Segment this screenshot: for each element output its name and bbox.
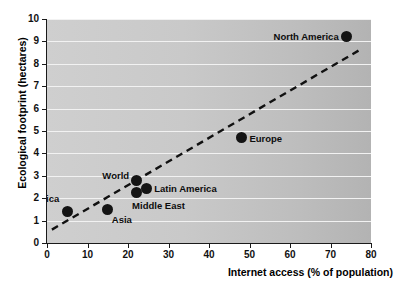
x-axis-title: Internet access (% of population): [181, 266, 393, 278]
x-axis-tick: [290, 244, 291, 248]
data-point-label: Europe: [249, 134, 282, 144]
x-axis-tick: [88, 244, 89, 248]
data-point-label: Latin America: [154, 184, 216, 194]
y-axis-tick: [42, 131, 46, 132]
y-axis-tick: [42, 243, 46, 244]
data-point-label: Africa: [47, 194, 59, 204]
x-axis-tick-label: 80: [356, 250, 386, 260]
plot-area: AfricaAsiaWorldMiddle EastLatin AmericaE…: [47, 19, 371, 243]
x-axis-tick: [250, 244, 251, 248]
data-point-label: World: [102, 171, 129, 181]
x-axis-tick-label: 60: [275, 250, 305, 260]
data-point-marker: [131, 187, 142, 198]
y-axis-tick: [42, 64, 46, 65]
x-axis-tick-label: 30: [154, 250, 184, 260]
x-axis-tick: [371, 244, 372, 248]
y-axis-tick: [42, 153, 46, 154]
scatter-chart-figure: · · · · · · AfricaAsiaWorldMiddle EastLa…: [0, 0, 395, 291]
data-point-marker: [141, 183, 152, 194]
data-point-label: Middle East: [132, 201, 185, 211]
data-point-label: North America: [274, 32, 339, 42]
x-axis-tick-label: 50: [235, 250, 265, 260]
x-axis-tick-label: 0: [32, 250, 62, 260]
x-axis-tick: [169, 244, 170, 248]
x-axis-tick-label: 70: [316, 250, 346, 260]
trendline: [47, 19, 371, 243]
x-axis-tick: [209, 244, 210, 248]
x-axis-tick-label: 10: [73, 250, 103, 260]
clipped-caption-remnant: · · · · · ·: [95, 0, 325, 4]
y-axis-title: Ecological footprint (hectares): [16, 18, 28, 208]
y-axis-tick: [42, 221, 46, 222]
x-axis-tick-label: 40: [194, 250, 224, 260]
y-axis-tick: [42, 86, 46, 87]
data-point-label: Asia: [112, 215, 132, 225]
data-point-marker: [236, 132, 247, 143]
y-axis-tick: [42, 109, 46, 110]
x-axis-tick: [47, 244, 48, 248]
y-axis-tick: [42, 19, 46, 20]
data-point-marker: [62, 206, 73, 217]
x-axis-tick: [331, 244, 332, 248]
y-axis-tick: [42, 41, 46, 42]
x-axis-tick-label: 20: [113, 250, 143, 260]
y-axis-tick-label: 0: [17, 238, 39, 248]
y-axis-tick-label: 1: [17, 216, 39, 226]
data-point-marker: [131, 175, 142, 186]
y-axis-line: [46, 19, 47, 244]
y-axis-tick: [42, 198, 46, 199]
x-axis-tick: [128, 244, 129, 248]
y-axis-tick: [42, 176, 46, 177]
